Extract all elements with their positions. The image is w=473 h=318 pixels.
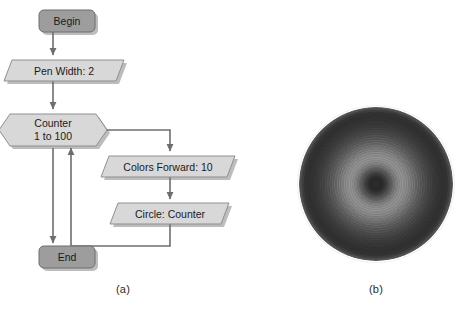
node-circle-counter-label: Circle: Counter [135,208,206,220]
node-counter-label-line1: Counter [34,117,72,129]
node-counter[interactable]: Counter 1 to 100 [0,114,107,146]
node-circle-counter[interactable]: Circle: Counter [110,203,229,224]
caption-panel-b: (b) [369,283,383,295]
edge-counter-to-colors-forward [100,130,170,151]
node-colors-forward[interactable]: Colors Forward: 10 [101,156,235,177]
node-begin-label: Begin [54,15,81,27]
node-pen-width-label: Pen Width: 2 [34,65,94,77]
node-end-label: End [58,251,77,263]
node-counter-label-line2: 1 to 100 [34,130,72,142]
node-pen-width[interactable]: Pen Width: 2 [4,60,124,81]
caption-panel-a: (a) [116,283,130,295]
concentric-circles-artwork [299,107,453,261]
node-begin[interactable]: Begin [39,10,95,32]
node-colors-forward-label: Colors Forward: 10 [123,161,212,173]
node-end[interactable]: End [39,246,95,268]
